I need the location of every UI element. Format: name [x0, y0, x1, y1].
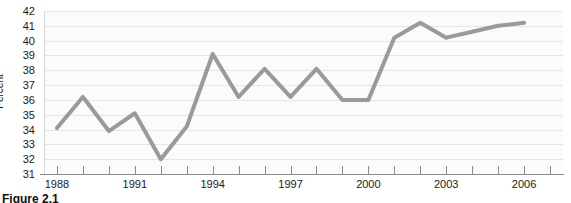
gridline — [44, 115, 563, 116]
x-axis-tick-label: 1988 — [45, 178, 69, 190]
gridline — [44, 41, 563, 42]
y-axis-tick-label: 35 — [23, 109, 35, 120]
gridline — [44, 26, 563, 27]
x-axis-tick — [187, 166, 188, 174]
x-axis-tick-label: 1994 — [200, 178, 224, 190]
y-axis-tick-label: 34 — [23, 124, 35, 135]
x-axis-tick-label: 1991 — [123, 178, 147, 190]
x-axis-tick — [135, 166, 136, 174]
x-axis-tick — [239, 166, 240, 174]
y-axis-tick-label: 40 — [23, 35, 35, 46]
gridline — [44, 144, 563, 145]
x-axis-tick-label: 2003 — [434, 178, 458, 190]
y-axis-tick-label-group: 313233343536373839404142 — [0, 0, 42, 203]
x-axis-tick — [498, 166, 499, 174]
x-axis-tick — [472, 166, 473, 174]
x-axis-tick — [394, 166, 395, 174]
gridline — [44, 11, 563, 12]
y-axis-title: Percent — [0, 74, 5, 108]
y-axis-line — [44, 11, 45, 175]
x-axis-tick — [213, 166, 214, 174]
gridline — [44, 55, 563, 56]
x-axis-tick-label: 2006 — [512, 178, 536, 190]
y-axis-tick-label: 31 — [23, 169, 35, 180]
x-axis-tick-label: 2000 — [356, 178, 380, 190]
x-axis-tick — [420, 166, 421, 174]
y-axis-tick-label: 37 — [23, 80, 35, 91]
x-axis-tick — [265, 166, 266, 174]
x-axis-tick — [446, 166, 447, 174]
y-axis-tick-label: 41 — [23, 20, 35, 31]
figure-container: 313233343536373839404142 Percent Figure … — [0, 0, 571, 203]
y-axis-tick-label: 39 — [23, 50, 35, 61]
gridline — [44, 85, 563, 86]
x-axis-tick — [550, 166, 551, 174]
gridline — [44, 100, 563, 101]
y-axis-tick-label: 38 — [23, 65, 35, 76]
x-axis-tick — [57, 166, 58, 174]
gridline — [44, 159, 563, 160]
gridline — [44, 70, 563, 71]
x-axis-tick — [316, 166, 317, 174]
chart-plot-area — [44, 11, 563, 174]
y-axis-tick-label: 36 — [23, 94, 35, 105]
x-axis-tick — [161, 166, 162, 174]
x-axis-tick — [83, 166, 84, 174]
y-axis-tick-label: 33 — [23, 139, 35, 150]
x-axis-tick — [368, 166, 369, 174]
x-axis-tick — [342, 166, 343, 174]
figure-caption: Figure 2.1 — [2, 192, 59, 203]
x-axis-tick — [291, 166, 292, 174]
y-axis-tick-label: 42 — [23, 6, 35, 17]
x-axis-tick — [524, 166, 525, 174]
x-axis-tick-label: 1997 — [278, 178, 302, 190]
gridline — [44, 130, 563, 131]
y-axis-tick-label: 32 — [23, 154, 35, 165]
x-axis-tick — [109, 166, 110, 174]
x-axis-line — [40, 174, 564, 175]
